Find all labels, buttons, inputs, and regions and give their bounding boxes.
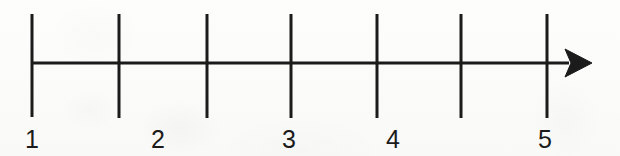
tick-label-5: 5: [538, 127, 552, 152]
tick-label-2: 2: [151, 127, 165, 152]
tick-label-1: 1: [25, 127, 39, 152]
tick-label-3: 3: [282, 127, 296, 152]
number-line-figure: 12345: [0, 0, 620, 156]
tick-label-4: 4: [386, 127, 400, 152]
arrowhead-group: [565, 49, 592, 77]
arrowhead-right: [565, 49, 592, 77]
tick-mark-group: [32, 14, 547, 118]
number-line-svg: [0, 0, 620, 156]
